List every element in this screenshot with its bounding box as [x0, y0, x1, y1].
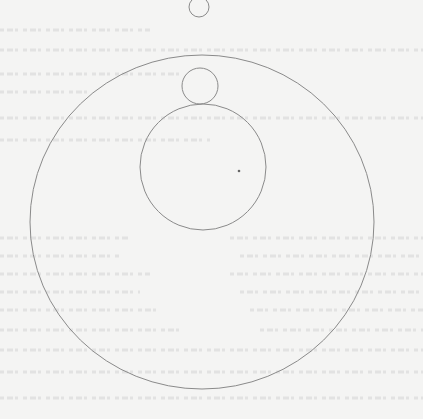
medium-circle: [140, 104, 266, 230]
top-small-circle: [189, 0, 209, 17]
scanned-page: [0, 0, 423, 419]
center-dot: [238, 170, 241, 173]
circles-diagram: [0, 0, 423, 419]
large-circle: [30, 55, 374, 389]
inner-small-circle: [182, 68, 218, 104]
